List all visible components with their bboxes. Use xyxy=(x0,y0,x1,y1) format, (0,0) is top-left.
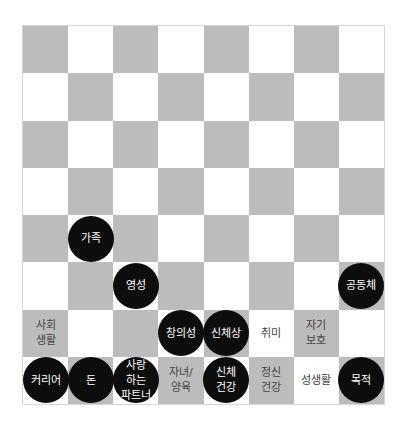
cell-label: 목적 xyxy=(351,373,371,388)
board-cell xyxy=(68,262,113,309)
board-cell xyxy=(23,215,68,262)
cell-label: 자녀/ 양육 xyxy=(169,365,193,395)
board-cell xyxy=(23,73,68,120)
board-cell xyxy=(249,26,294,73)
board-cell xyxy=(158,26,203,73)
board-cell xyxy=(68,73,113,120)
board-cell xyxy=(339,310,384,357)
checkerboard: 가족영성공동체사회 생활창의성신체상취미자기 보호커리어돈사랑 하는 파트너자녀… xyxy=(22,25,385,405)
board-cell: 사랑 하는 파트너 xyxy=(113,357,158,404)
board-cell xyxy=(23,26,68,73)
board-cell xyxy=(158,121,203,168)
cell-label: 신체상 xyxy=(211,326,241,341)
board-cell xyxy=(204,215,249,262)
board-cell xyxy=(249,73,294,120)
board-cell xyxy=(158,73,203,120)
board-cell xyxy=(249,262,294,309)
board-cell: 신체 건강 xyxy=(204,357,249,404)
board-cell xyxy=(113,26,158,73)
board-cell: 커리어 xyxy=(23,357,68,404)
board-cell xyxy=(249,215,294,262)
board-cell xyxy=(339,73,384,120)
board-cell: 돈 xyxy=(68,357,113,404)
board-cell xyxy=(68,168,113,215)
board-cell xyxy=(113,73,158,120)
board-cell xyxy=(339,121,384,168)
board-cell xyxy=(23,121,68,168)
cell-label: 사랑 하는 파트너 xyxy=(121,358,151,403)
board-cell: 목적 xyxy=(339,357,384,404)
board-cell xyxy=(113,121,158,168)
board-cell xyxy=(113,168,158,215)
board-cell: 가족 xyxy=(68,215,113,262)
board-cell xyxy=(113,310,158,357)
board-cell xyxy=(294,26,339,73)
board-cell: 공동체 xyxy=(339,262,384,309)
board-cell: 취미 xyxy=(249,310,294,357)
board-cell xyxy=(158,168,203,215)
cell-label: 가족 xyxy=(81,231,101,246)
board-cell xyxy=(113,215,158,262)
cell-label: 신체 건강 xyxy=(216,365,236,395)
board-cell xyxy=(68,26,113,73)
cell-label: 창의성 xyxy=(166,326,196,341)
board-cell xyxy=(294,215,339,262)
board-cell xyxy=(249,121,294,168)
board-cell xyxy=(294,121,339,168)
board-cell: 자녀/ 양육 xyxy=(158,357,203,404)
board-cell: 정신 건강 xyxy=(249,357,294,404)
cell-label: 공동체 xyxy=(346,278,376,293)
board-cell xyxy=(68,121,113,168)
board-cell xyxy=(249,168,294,215)
cell-label: 자기 보호 xyxy=(306,318,326,348)
board-cell xyxy=(204,168,249,215)
cell-label: 취미 xyxy=(261,326,281,341)
cell-label: 영성 xyxy=(126,278,146,293)
board-cell xyxy=(23,168,68,215)
board-cell xyxy=(294,168,339,215)
board-cell xyxy=(204,73,249,120)
board-cell xyxy=(158,215,203,262)
board-cell: 성생활 xyxy=(294,357,339,404)
board-cell xyxy=(294,262,339,309)
board-cell xyxy=(23,262,68,309)
board-cell xyxy=(204,121,249,168)
board-cell xyxy=(339,215,384,262)
board-cell: 사회 생활 xyxy=(23,310,68,357)
board-cell xyxy=(339,26,384,73)
board-cell: 영성 xyxy=(113,262,158,309)
board-cell xyxy=(294,73,339,120)
cell-label: 사회 생활 xyxy=(36,318,56,348)
board-cell xyxy=(339,168,384,215)
cell-label: 정신 건강 xyxy=(261,365,281,395)
board-cell xyxy=(68,310,113,357)
cell-label: 커리어 xyxy=(31,373,61,388)
board-cell xyxy=(158,262,203,309)
board-cell xyxy=(204,26,249,73)
board-cell xyxy=(204,262,249,309)
board-cell: 신체상 xyxy=(204,310,249,357)
cell-label: 돈 xyxy=(86,373,96,388)
board-cell: 자기 보호 xyxy=(294,310,339,357)
cell-label: 성생활 xyxy=(301,373,331,388)
board-cell: 창의성 xyxy=(158,310,203,357)
